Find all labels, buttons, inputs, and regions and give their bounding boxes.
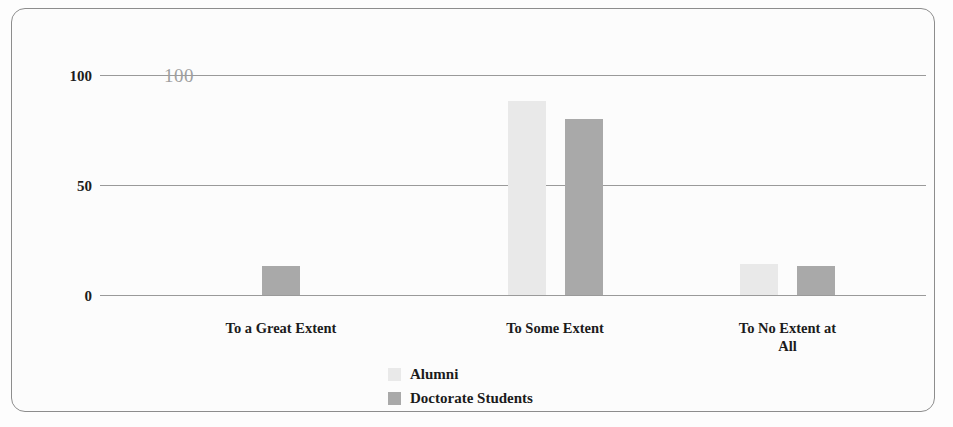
legend-item-alumni[interactable]: Alumni: [388, 364, 533, 385]
bars-layer: [100, 49, 926, 299]
y-tick-label-50: 50: [46, 179, 92, 194]
bar-alumni-to-no-extent-at-all[interactable]: [740, 264, 778, 295]
bar-group-to-no-extent-at-all: [692, 49, 882, 295]
chart-legend: Alumni Doctorate Students: [388, 364, 533, 409]
category-label-line-2: All: [778, 338, 797, 354]
legend-swatch-doctorate-students-icon: [388, 392, 401, 405]
category-label-to-no-extent-at-all: To No Extent at All: [695, 319, 880, 355]
y-tick-label-100: 100: [46, 69, 92, 84]
legend-swatch-alumni-icon: [388, 368, 401, 381]
legend-label-alumni: Alumni: [410, 366, 458, 383]
bar-doctorate-students-to-a-great-extent[interactable]: [262, 266, 300, 295]
legend-item-doctorate-students[interactable]: Doctorate Students: [388, 388, 533, 409]
chart-screenshot: 100 50 0 100: [0, 0, 953, 427]
category-label-to-some-extent: To Some Extent: [430, 319, 680, 337]
bar-doctorate-students-to-some-extent[interactable]: [565, 119, 603, 295]
legend-label-doctorate-students: Doctorate Students: [410, 390, 533, 407]
y-tick-label-0: 0: [46, 289, 92, 304]
category-label-to-a-great-extent: To a Great Extent: [156, 319, 406, 337]
x-axis-category-labels: To a Great Extent To Some Extent To No E…: [100, 303, 926, 355]
bar-group-to-some-extent: [460, 49, 650, 295]
bar-alumni-to-some-extent[interactable]: [508, 101, 546, 295]
chart-frame: 100 50 0 100: [11, 8, 935, 412]
category-label-line-1: To No Extent at: [739, 320, 836, 336]
y-axis: 100 50 0: [30, 49, 92, 299]
bar-doctorate-students-to-no-extent-at-all[interactable]: [797, 266, 835, 295]
bar-group-to-a-great-extent: [186, 49, 376, 295]
